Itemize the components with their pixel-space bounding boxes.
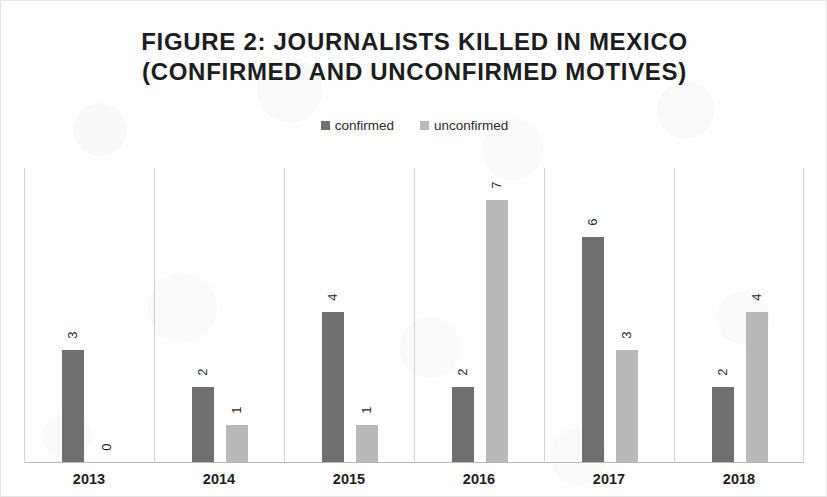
chart-title: FIGURE 2: JOURNALISTS KILLED IN MEXICO (… <box>1 27 827 87</box>
bar-confirmed-2018[interactable] <box>712 387 734 462</box>
bar-value-unconfirmed-2015: 1 <box>360 399 374 421</box>
bar-value-unconfirmed-2014: 1 <box>230 399 244 421</box>
chart-title-line-2: (CONFIRMED AND UNCONFIRMED MOTIVES) <box>1 57 827 87</box>
bar-value-confirmed-2014: 2 <box>196 361 210 383</box>
bar-group-2016: 27 <box>414 168 544 463</box>
x-tick-2017: 2017 <box>544 471 674 487</box>
bar-confirmed-2015[interactable] <box>322 312 344 462</box>
bar-unconfirmed-2017[interactable] <box>616 350 638 462</box>
bar-value-unconfirmed-2017: 3 <box>620 324 634 346</box>
bar-confirmed-2016[interactable] <box>452 387 474 462</box>
bar-group-2018: 24 <box>674 168 804 463</box>
chart-title-line-1: FIGURE 2: JOURNALISTS KILLED IN MEXICO <box>1 27 827 57</box>
bar-unconfirmed-2018[interactable] <box>746 312 768 462</box>
legend-label-unconfirmed: unconfirmed <box>434 118 508 133</box>
chart-legend: confirmed unconfirmed <box>1 118 827 133</box>
bar-confirmed-2014[interactable] <box>192 387 214 462</box>
legend-swatch-confirmed <box>321 121 330 130</box>
x-tick-2016: 2016 <box>414 471 544 487</box>
bar-confirmed-2013[interactable] <box>62 350 84 462</box>
bar-unconfirmed-2014[interactable] <box>226 425 248 462</box>
bar-value-unconfirmed-2018: 4 <box>750 286 764 308</box>
bar-value-confirmed-2013: 3 <box>66 324 80 346</box>
bar-value-confirmed-2018: 2 <box>716 361 730 383</box>
legend-label-confirmed: confirmed <box>335 118 394 133</box>
legend-entry-confirmed[interactable]: confirmed <box>321 118 394 133</box>
x-tick-2014: 2014 <box>154 471 284 487</box>
x-tick-2013: 2013 <box>24 471 154 487</box>
x-tick-2015: 2015 <box>284 471 414 487</box>
bar-value-confirmed-2015: 4 <box>326 286 340 308</box>
bar-value-unconfirmed-2016: 7 <box>490 174 504 196</box>
bar-group-2014: 21 <box>154 168 284 463</box>
bar-unconfirmed-2016[interactable] <box>486 200 508 462</box>
bar-value-confirmed-2016: 2 <box>456 361 470 383</box>
legend-swatch-unconfirmed <box>420 121 429 130</box>
bar-group-2015: 41 <box>284 168 414 463</box>
bar-value-confirmed-2017: 6 <box>586 211 600 233</box>
figure-container: FIGURE 2: JOURNALISTS KILLED IN MEXICO (… <box>0 0 827 497</box>
plot-area: 302141276324 <box>24 168 804 463</box>
bar-value-unconfirmed-2013: 0 <box>100 436 114 458</box>
bar-group-2013: 30 <box>24 168 154 463</box>
bar-group-2017: 63 <box>544 168 674 463</box>
x-tick-2018: 2018 <box>674 471 804 487</box>
bar-confirmed-2017[interactable] <box>582 237 604 462</box>
bar-unconfirmed-2015[interactable] <box>356 425 378 462</box>
x-axis-tick-labels: 201320142015201620172018 <box>24 465 804 495</box>
legend-entry-unconfirmed[interactable]: unconfirmed <box>420 118 508 133</box>
